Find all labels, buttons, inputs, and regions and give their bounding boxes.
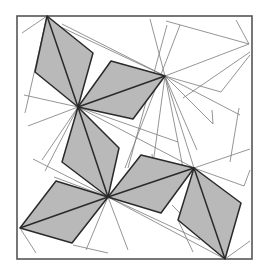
geometric-diagram [0, 0, 267, 276]
